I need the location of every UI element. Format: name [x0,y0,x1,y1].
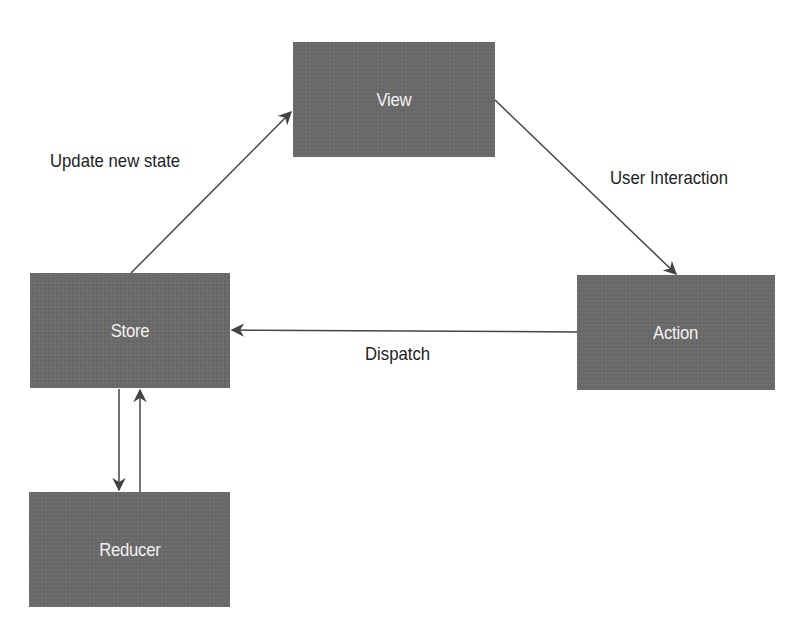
edge-store-to-view [131,112,291,273]
node-reducer: Reducer [29,492,230,607]
node-action: Action [577,275,775,390]
node-action-label: Action [654,322,699,344]
edge-label-update-new-state: Update new state [50,150,198,172]
node-view-label: View [377,89,412,111]
node-view: View [293,42,495,157]
node-store: Store [30,273,230,388]
edge-action-to-store [232,330,577,332]
edge-label-user-interaction: User Interaction [610,167,744,189]
node-store-label: Store [111,320,150,342]
edge-label-dispatch: Dispatch [365,343,439,365]
node-reducer-label: Reducer [99,539,160,561]
